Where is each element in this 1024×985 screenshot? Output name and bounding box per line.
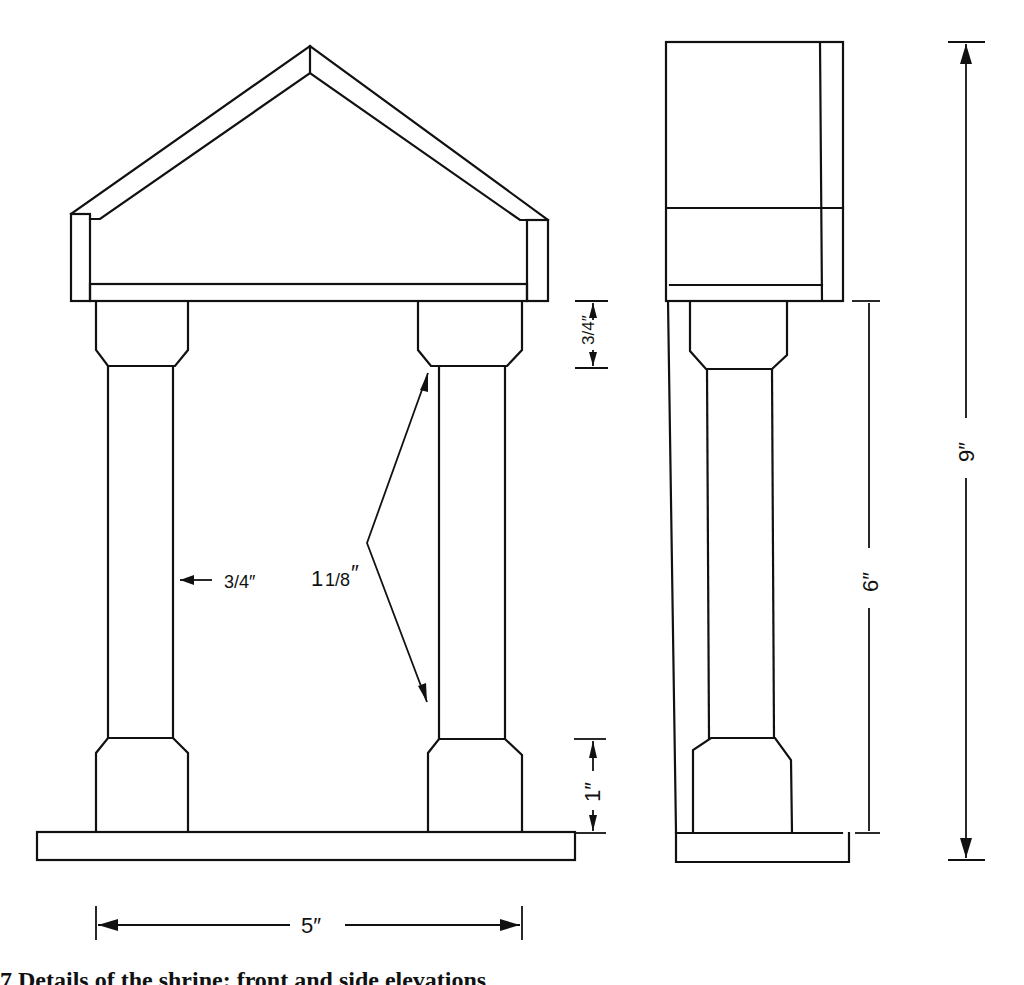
left-base (96, 738, 188, 832)
arrow-down-icon (418, 683, 427, 702)
cornice-right-block (527, 220, 548, 301)
arrow-up-icon (420, 373, 428, 392)
column-height-label: 6″ (858, 572, 883, 592)
left-capital (96, 301, 188, 366)
arrow-up-icon (589, 741, 597, 758)
dimension-shaft-width: 3/4″ (180, 572, 256, 592)
arrow-down-icon (960, 838, 972, 858)
side-plinth (676, 833, 849, 862)
side-capital (690, 301, 787, 369)
right-base (428, 739, 522, 832)
dimension-column-depth: 1 1/8 ″ (311, 373, 428, 702)
pediment-inner (90, 73, 530, 220)
front-plinth (37, 832, 575, 860)
front-elevation (37, 46, 575, 860)
base-label: 1″ (580, 782, 605, 802)
side-base (693, 738, 792, 833)
entablature (90, 284, 527, 301)
depth-label-inch-mark: ″ (351, 560, 359, 585)
depth-label-whole: 1 (311, 566, 323, 591)
dimension-capital: 3/4″ (575, 301, 608, 368)
arrow-right-icon (500, 919, 520, 931)
dimension-base: 1″ (574, 739, 606, 833)
cornice-left-block (71, 214, 90, 301)
arrow-left-icon (180, 575, 194, 585)
figure-caption: 7 Details of the shrine: front and side … (0, 968, 486, 985)
dimension-column-height: 6″ (852, 301, 883, 833)
height-label: 9″ (954, 442, 979, 462)
arrow-down-icon (589, 352, 597, 366)
shaft-width-label: 3/4″ (224, 572, 256, 592)
side-back-edge (668, 301, 676, 832)
side-roof-divider-vertical (820, 42, 822, 301)
depth-label-fraction: 1/8 (325, 570, 350, 590)
arrow-left-icon (98, 919, 118, 931)
technical-drawing: 5″ 9″ 6″ 3/4″ 1″ (0, 0, 1024, 985)
side-roof-block (666, 42, 843, 301)
capital-label: 3/4″ (579, 315, 598, 345)
right-capital (418, 301, 522, 366)
side-shaft-right-edge (772, 369, 774, 738)
side-shaft-left-edge (707, 369, 709, 738)
right-column (418, 301, 522, 832)
dimension-width: 5″ (96, 906, 522, 940)
dimension-height: 9″ (948, 42, 985, 860)
left-column (96, 301, 188, 832)
arrow-down-icon (589, 815, 597, 831)
side-elevation (666, 42, 849, 862)
width-label: 5″ (301, 913, 321, 938)
arrow-up-icon (960, 44, 972, 64)
